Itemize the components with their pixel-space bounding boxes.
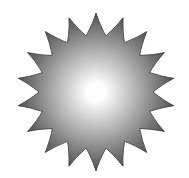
sun-texture — [18, 13, 174, 171]
sun-icon — [0, 0, 189, 178]
sun-illustration — [0, 0, 189, 178]
